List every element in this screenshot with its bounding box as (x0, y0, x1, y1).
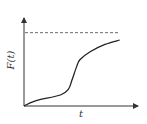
series-line-F (24, 40, 120, 106)
x-axis-label: t (79, 108, 84, 119)
y-axis-label: F(t) (5, 51, 16, 71)
chart: F(t) t (0, 0, 147, 124)
